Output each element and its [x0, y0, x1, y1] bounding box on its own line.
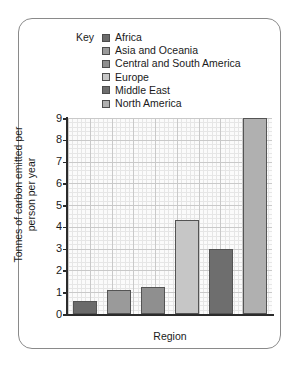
legend-item: Africa [102, 31, 241, 44]
legend-item: Asia and Oceania [102, 44, 241, 57]
plot-area: 0123456789 [68, 118, 272, 314]
legend-item: North America [102, 97, 241, 110]
y-axis-title: Tonnes of carbon emitted per person per … [12, 110, 37, 280]
legend-swatch-icon [102, 86, 110, 94]
y-axis-tick-label: 1 [46, 287, 62, 298]
x-axis-title: Region [68, 330, 272, 342]
y-axis-tick-label: 8 [46, 134, 62, 145]
bar-asia-and-oceania [107, 290, 131, 314]
y-axis-tick-label: 7 [46, 156, 62, 167]
legend-item-label: Middle East [115, 84, 170, 97]
y-axis-tick-label: 4 [46, 221, 62, 232]
legend-item-label: Asia and Oceania [115, 44, 198, 57]
legend-item: Middle East [102, 84, 241, 97]
figure: Key AfricaAsia and OceaniaCentral and So… [0, 0, 300, 367]
legend-item-label: Europe [115, 71, 149, 84]
y-axis-tick-label: 2 [46, 265, 62, 276]
legend-item: Central and South America [102, 57, 241, 70]
bar-europe [175, 220, 199, 314]
legend-title: Key [76, 31, 94, 44]
y-axis-tick-label: 3 [46, 243, 62, 254]
legend-swatch-icon [102, 73, 110, 81]
y-axis-tick-label: 9 [46, 113, 62, 124]
y-axis-tick-label: 0 [46, 309, 62, 320]
legend-swatch-icon [102, 47, 110, 55]
y-axis-line [66, 117, 68, 315]
y-axis-tick-label: 6 [46, 178, 62, 189]
legend-item-label: Africa [115, 31, 142, 44]
bar-middle-east [209, 249, 233, 314]
chart-legend: Key AfricaAsia and OceaniaCentral and So… [76, 31, 241, 110]
bar-north-america [243, 118, 267, 314]
legend-item: Europe [102, 71, 241, 84]
legend-item-label: Central and South America [115, 57, 241, 70]
x-axis-line [66, 314, 274, 316]
legend-swatch-icon [102, 60, 110, 68]
legend-items: AfricaAsia and OceaniaCentral and South … [102, 31, 241, 110]
bar-africa [73, 301, 97, 314]
bar-central-and-south-america [141, 287, 165, 314]
legend-item-label: North America [115, 97, 182, 110]
legend-swatch-icon [102, 100, 110, 108]
y-axis-tick-label: 5 [46, 200, 62, 211]
legend-swatch-icon [102, 34, 110, 42]
